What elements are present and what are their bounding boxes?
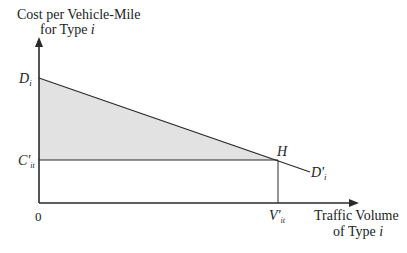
- demand-intercept-label: Di: [18, 71, 32, 88]
- x-axis-label-line2: of Type i: [333, 224, 383, 239]
- origin-label: 0: [35, 209, 42, 224]
- demand-curve-label: D'i: [310, 165, 327, 182]
- cost-level-label: C'it: [18, 153, 36, 170]
- x-axis-label-line1: Traffic Volume: [314, 208, 399, 223]
- y-axis-label-line2: for Type i: [40, 22, 95, 37]
- cost-volume-diagram: Cost per Vehicle-Mile for Type i Di C'it…: [0, 0, 407, 253]
- intersection-label-h: H: [276, 144, 288, 159]
- volume-label: V'it: [269, 208, 286, 225]
- x-axis-arrow-icon: [349, 199, 359, 207]
- y-axis-arrow-icon: [35, 37, 43, 47]
- y-axis-label-line1: Cost per Vehicle-Mile: [17, 7, 140, 22]
